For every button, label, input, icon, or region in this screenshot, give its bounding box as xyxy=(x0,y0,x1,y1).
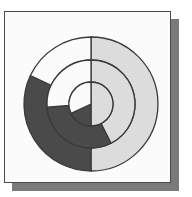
chart-rings xyxy=(24,37,158,171)
doughnut-chart xyxy=(0,0,192,197)
